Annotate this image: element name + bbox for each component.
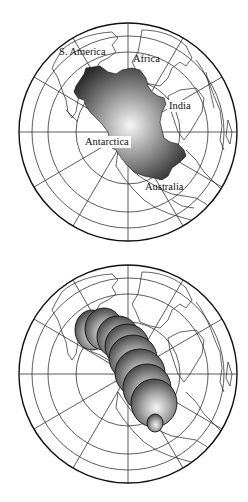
sphere-9 [147, 414, 163, 432]
label-india: India [167, 100, 193, 112]
label-australia: Australia [143, 181, 186, 193]
label-antarctica: Antarctica [83, 136, 131, 148]
label-africa: Africa [131, 53, 162, 65]
top-globe-map [0, 0, 248, 251]
top-globe-panel: S. America Africa India Antarctica Austr… [0, 0, 248, 251]
bottom-globe-map [0, 251, 248, 502]
label-s-america: S. America [57, 46, 108, 58]
antarctica-shaded-region [74, 66, 186, 180]
bottom-globe-panel [0, 251, 248, 502]
